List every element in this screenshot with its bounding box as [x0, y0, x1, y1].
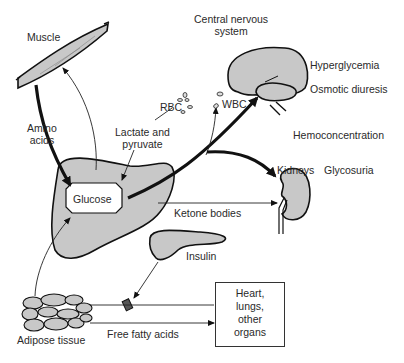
organs-line-heart: Heart, — [216, 287, 284, 300]
label-amino-line2: acids — [27, 134, 57, 146]
label-lactate-pyruvate: Lactate and pyruvate — [115, 126, 170, 150]
label-osmotic-diuresis: Osmotic diuresis — [310, 83, 388, 95]
label-cns-line2: system — [194, 25, 268, 37]
organs-box: Heart, lungs, other organs — [215, 282, 285, 347]
label-rbc: RBC — [160, 101, 182, 113]
organs-line-lungs: lungs, — [216, 300, 284, 313]
label-cns-line1: Central nervous — [194, 13, 268, 25]
arrow-glucose-to-muscle — [63, 68, 96, 170]
arrow-to-kidneys — [207, 152, 275, 176]
label-free-fatty-acids: Free fatty acids — [107, 328, 179, 340]
label-lactate-line1: Lactate and — [115, 126, 170, 138]
metabolic-diagram — [0, 0, 404, 363]
organs-line-other: other — [216, 313, 284, 326]
label-glycosuria: Glycosuria — [324, 164, 374, 176]
label-kidneys: Kidneys — [277, 164, 314, 176]
label-adipose-tissue: Adipose tissue — [17, 334, 85, 346]
label-amino-acids: Amino acids — [27, 122, 57, 146]
label-insulin: Insulin — [186, 250, 216, 262]
label-amino-line1: Amino — [27, 122, 57, 134]
kidney-shape — [279, 169, 310, 234]
label-hemoconcentration: Hemoconcentration — [293, 129, 384, 141]
label-muscle: Muscle — [27, 31, 60, 43]
adipose-shape — [22, 294, 92, 331]
organs-line-organs: organs — [216, 326, 284, 339]
label-lactate-line2: pyruvate — [115, 138, 170, 150]
label-cns: Central nervous system — [194, 13, 268, 37]
label-ketone-bodies: Ketone bodies — [174, 207, 241, 219]
label-glucose: Glucose — [73, 193, 112, 205]
arrow-insulin-inhibit — [134, 262, 158, 298]
label-wbc: WBC — [222, 98, 247, 110]
label-hyperglycemia: Hyperglycemia — [310, 59, 379, 71]
